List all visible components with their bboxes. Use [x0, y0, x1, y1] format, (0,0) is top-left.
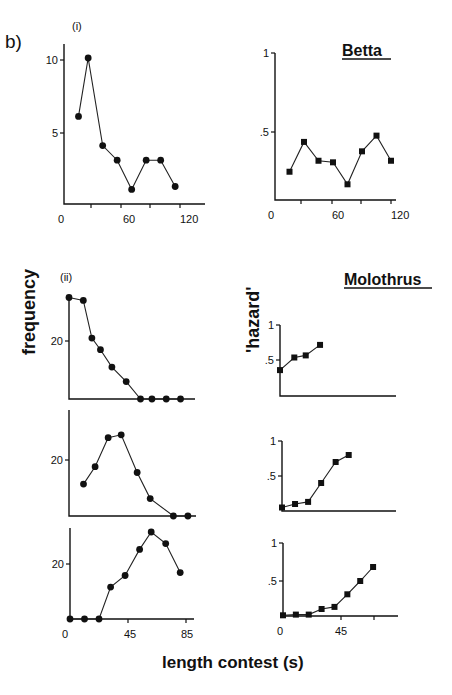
- x-axis-label: length contest (s): [162, 653, 304, 672]
- data-point-circle: [81, 616, 88, 623]
- x-tick-label: 45: [335, 625, 347, 637]
- data-point-square: [359, 148, 365, 154]
- data-point-circle: [114, 157, 121, 164]
- x-tick-label: 60: [332, 209, 344, 221]
- y-axis-label-frequency: frequency: [19, 269, 39, 355]
- data-point-circle: [147, 495, 154, 502]
- chart-molothrus-hazard-3: .51045: [268, 537, 398, 637]
- chart-betta-frequency: 510060120: [46, 44, 205, 225]
- data-point-circle: [157, 157, 164, 164]
- data-point-square: [330, 159, 336, 165]
- data-line: [282, 455, 349, 508]
- data-point-square: [293, 612, 299, 618]
- data-point-circle: [75, 113, 82, 120]
- data-point-square: [319, 606, 325, 612]
- data-point-circle: [149, 396, 156, 403]
- data-point-square: [280, 612, 286, 618]
- data-point-circle: [128, 186, 135, 193]
- data-point-square: [277, 367, 283, 373]
- data-point-circle: [99, 142, 106, 149]
- y-tick-label: 1: [268, 319, 274, 331]
- data-point-square: [374, 133, 380, 139]
- data-point-square: [287, 169, 293, 175]
- data-point-circle: [80, 481, 87, 488]
- data-point-circle: [85, 55, 92, 62]
- data-point-square: [388, 158, 394, 164]
- data-point-square: [331, 604, 337, 610]
- data-point-square: [370, 564, 376, 570]
- x-tick-label: 120: [180, 213, 198, 225]
- data-point-square: [344, 591, 350, 597]
- data-point-circle: [170, 513, 177, 520]
- data-point-circle: [88, 335, 95, 342]
- figure-canvas: b) (i) (ii) Betta Molothrus frequency 'h…: [0, 0, 452, 695]
- axis-lines: [275, 53, 396, 200]
- data-point-square: [357, 578, 363, 584]
- axis-lines: [70, 528, 194, 619]
- data-point-circle: [177, 396, 184, 403]
- data-point-circle: [163, 396, 170, 403]
- y-tick-label: .5: [267, 470, 276, 482]
- data-point-circle: [177, 569, 184, 576]
- data-point-square: [316, 158, 322, 164]
- data-point-square: [292, 501, 298, 507]
- data-point-circle: [148, 529, 155, 536]
- axis-lines: [283, 543, 398, 616]
- y-tick-label: 10: [46, 54, 58, 66]
- y-tick-label: 20: [52, 558, 64, 570]
- data-point-square: [306, 612, 312, 618]
- data-point-square: [346, 452, 352, 458]
- data-point-circle: [96, 616, 103, 623]
- data-point-circle: [67, 616, 74, 623]
- data-point-square: [345, 181, 351, 187]
- axis-lines: [282, 441, 396, 511]
- data-point-circle: [185, 513, 192, 520]
- species-title-betta: Betta: [342, 42, 382, 59]
- y-tick-label: 1: [263, 47, 269, 59]
- data-point-circle: [136, 546, 143, 553]
- data-point-circle: [143, 157, 150, 164]
- data-point-circle: [92, 463, 99, 470]
- chart-molothrus-hazard-2: .51: [267, 435, 396, 511]
- data-point-circle: [122, 572, 129, 579]
- data-point-circle: [134, 469, 141, 476]
- axis-lines: [280, 325, 396, 396]
- y-tick-label: 20: [51, 454, 63, 466]
- x-tick-label: 0: [268, 209, 274, 221]
- x-tick-label: 45: [124, 628, 136, 640]
- x-tick-label: 85: [181, 628, 193, 640]
- x-tick-label: 120: [391, 209, 409, 221]
- data-point-circle: [66, 294, 73, 301]
- data-point-circle: [109, 364, 116, 371]
- subpanel-label-i: (i): [72, 20, 82, 32]
- axis-lines: [69, 297, 195, 399]
- data-point-circle: [172, 183, 179, 190]
- chart-molothrus-frequency-2: 20: [51, 410, 196, 519]
- data-point-square: [303, 352, 309, 358]
- data-point-circle: [107, 584, 114, 591]
- y-axis-label-hazard: 'hazard': [243, 286, 263, 353]
- data-point-square: [301, 139, 307, 145]
- data-point-circle: [105, 434, 112, 441]
- data-point-circle: [137, 396, 144, 403]
- x-tick-label: 60: [123, 213, 135, 225]
- data-point-square: [291, 355, 297, 361]
- y-tick-label: .5: [265, 354, 274, 366]
- data-point-square: [318, 480, 324, 486]
- y-tick-label: 20: [51, 335, 63, 347]
- y-tick-label: 5: [52, 127, 58, 139]
- data-point-circle: [162, 540, 169, 547]
- x-tick-label: 0: [58, 213, 64, 225]
- x-tick-label: 0: [277, 625, 283, 637]
- panel-label: b): [5, 31, 22, 52]
- chart-betta-hazard: .51060120: [260, 47, 410, 221]
- y-tick-label: .5: [268, 575, 277, 587]
- axis-lines: [64, 44, 205, 204]
- chart-molothrus-frequency-1: 20: [51, 294, 195, 402]
- y-tick-label: 1: [271, 537, 277, 549]
- data-line: [283, 567, 373, 615]
- data-line: [280, 345, 320, 370]
- chart-molothrus-hazard-1: .51: [265, 319, 396, 396]
- data-line: [79, 58, 176, 189]
- data-point-circle: [97, 346, 104, 353]
